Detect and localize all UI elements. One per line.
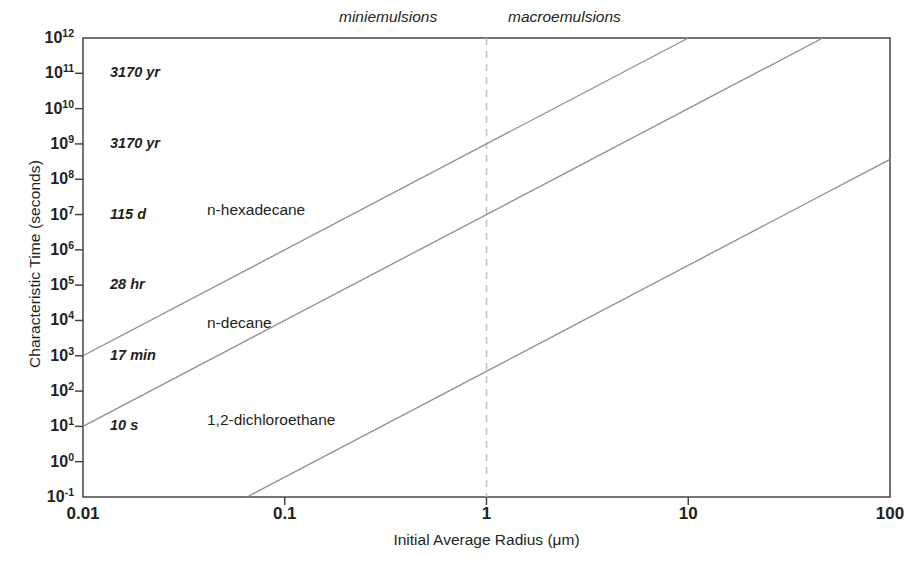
series-line — [247, 159, 890, 497]
series-line — [83, 38, 823, 426]
emulsion-region-label: macroemulsions — [508, 8, 621, 26]
series-inline-label: n-decane — [207, 314, 272, 332]
time-equivalent-label: 17 min — [110, 347, 156, 363]
time-equivalent-label: 28 hr — [110, 276, 145, 292]
x-tick-label: 0.1 — [273, 504, 297, 524]
y-axis-tick-marks — [75, 73, 83, 461]
x-tick-label: 1 — [482, 504, 491, 524]
y-tick-label: 1011 — [26, 65, 74, 81]
time-equivalent-label: 3170 yr — [110, 135, 160, 151]
series-inline-label: n-hexadecane — [207, 201, 305, 219]
time-equivalent-label: 3170 yr — [110, 64, 160, 80]
y-tick-label: 10-1 — [26, 489, 74, 505]
emulsion-region-label: miniemulsions — [339, 8, 437, 26]
x-tick-label: 10 — [679, 504, 698, 524]
y-tick-label: 100 — [26, 454, 74, 470]
x-tick-label: 100 — [876, 504, 904, 524]
x-tick-label: 0.01 — [66, 504, 99, 524]
y-axis-title: Characteristic Time (seconds) — [26, 104, 44, 424]
time-equivalent-label: 10 s — [110, 417, 138, 433]
y-tick-label: 1012 — [26, 30, 74, 46]
series-line — [83, 38, 688, 356]
time-equivalent-label: 115 d — [110, 206, 146, 222]
emulsion-stability-chart: 1012101110101091081071061051041031021011… — [0, 0, 906, 564]
x-axis-title: Initial Average Radius (μm) — [83, 531, 890, 549]
series-inline-label: 1,2-dichloroethane — [207, 411, 335, 429]
x-axis-tick-labels: 0.010.1110100 — [0, 504, 906, 534]
